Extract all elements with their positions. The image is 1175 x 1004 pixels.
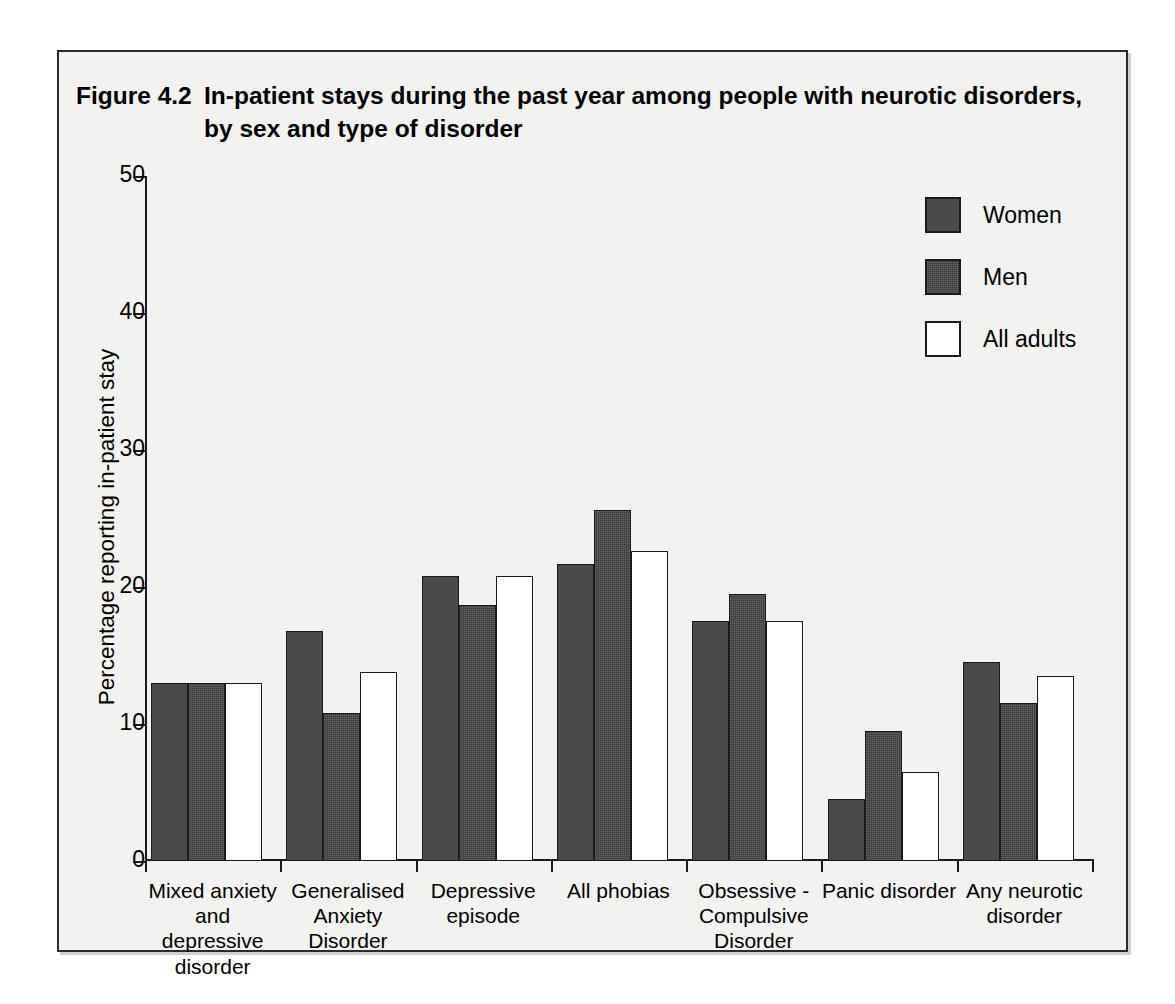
category-label-line: Disorder bbox=[686, 928, 821, 953]
bar[interactable] bbox=[594, 510, 631, 861]
figure-frame: Figure 4.2In-patient stays during the pa… bbox=[57, 50, 1128, 952]
bar[interactable] bbox=[459, 605, 496, 861]
x-tick-mark bbox=[280, 859, 282, 872]
category-label-line: disorder bbox=[145, 954, 280, 979]
legend-swatch-icon bbox=[925, 321, 961, 357]
y-tick-label: 50 bbox=[77, 161, 145, 188]
x-tick-mark bbox=[551, 859, 553, 872]
legend-label: All adults bbox=[983, 326, 1076, 353]
bar-group bbox=[151, 176, 262, 861]
legend-swatch-icon bbox=[925, 259, 961, 295]
bar[interactable] bbox=[151, 683, 188, 861]
x-axis-category-label: Any neuroticdisorder bbox=[957, 878, 1092, 928]
bar[interactable] bbox=[323, 713, 360, 861]
legend-item-all[interactable]: All adults bbox=[925, 308, 1115, 370]
bar[interactable] bbox=[631, 551, 668, 861]
x-tick-mark bbox=[686, 859, 688, 872]
y-tick-label: 20 bbox=[77, 572, 145, 599]
category-label-line: Any neurotic bbox=[957, 878, 1092, 903]
bar[interactable] bbox=[963, 662, 1000, 861]
x-axis-category-label: All phobias bbox=[551, 878, 686, 903]
bar[interactable] bbox=[865, 731, 902, 861]
legend-item-men[interactable]: Men bbox=[925, 246, 1115, 308]
legend-swatch-icon bbox=[925, 197, 961, 233]
bar[interactable] bbox=[188, 683, 225, 861]
bar[interactable] bbox=[729, 594, 766, 861]
legend-label: Men bbox=[983, 264, 1028, 291]
x-axis-category-label: GeneralisedAnxiety Disorder bbox=[280, 878, 415, 954]
x-tick-mark bbox=[416, 859, 418, 872]
legend-item-women[interactable]: Women bbox=[925, 184, 1115, 246]
bar[interactable] bbox=[1037, 676, 1074, 861]
category-label-line: Generalised bbox=[280, 878, 415, 903]
bar[interactable] bbox=[286, 631, 323, 861]
legend: WomenMenAll adults bbox=[925, 184, 1115, 370]
x-axis-category-label: Panic disorder bbox=[821, 878, 956, 903]
category-label-line: Compulsive bbox=[686, 903, 821, 928]
bar-group bbox=[692, 176, 803, 861]
category-label-line: Depressive bbox=[416, 878, 551, 903]
bar[interactable] bbox=[902, 772, 939, 861]
bar[interactable] bbox=[692, 621, 729, 861]
x-tick-mark bbox=[1092, 859, 1094, 872]
x-tick-mark bbox=[145, 859, 147, 872]
bar[interactable] bbox=[360, 672, 397, 861]
x-tick-mark bbox=[957, 859, 959, 872]
bar[interactable] bbox=[557, 564, 594, 861]
category-label-line: episode bbox=[416, 903, 551, 928]
plot-area: Percentage reporting in-patient stay 010… bbox=[59, 52, 1126, 950]
category-label-line: All phobias bbox=[551, 878, 686, 903]
bar[interactable] bbox=[496, 576, 533, 861]
bar-group bbox=[557, 176, 668, 861]
category-label-line: Mixed anxiety bbox=[145, 878, 280, 903]
y-tick-label: 10 bbox=[77, 709, 145, 736]
category-label-line: Obsessive - bbox=[686, 878, 821, 903]
bar-group bbox=[828, 176, 939, 861]
x-axis-category-label: Obsessive -CompulsiveDisorder bbox=[686, 878, 821, 954]
bar[interactable] bbox=[225, 683, 262, 861]
y-tick-label: 40 bbox=[77, 298, 145, 325]
category-label-line: Panic disorder bbox=[821, 878, 956, 903]
bar[interactable] bbox=[422, 576, 459, 861]
category-label-line: and depressive bbox=[145, 903, 280, 953]
y-tick-label: 0 bbox=[77, 846, 145, 873]
category-label-line: disorder bbox=[957, 903, 1092, 928]
x-axis-category-label: Depressiveepisode bbox=[416, 878, 551, 928]
bar[interactable] bbox=[766, 621, 803, 861]
bar-group bbox=[422, 176, 533, 861]
bar-group bbox=[286, 176, 397, 861]
bar[interactable] bbox=[1000, 703, 1037, 861]
x-axis-category-label: Mixed anxietyand depressivedisorder bbox=[145, 878, 280, 979]
legend-label: Women bbox=[983, 202, 1062, 229]
bar[interactable] bbox=[828, 799, 865, 861]
category-label-line: Anxiety Disorder bbox=[280, 903, 415, 953]
y-tick-label: 30 bbox=[77, 435, 145, 462]
x-tick-mark bbox=[821, 859, 823, 872]
